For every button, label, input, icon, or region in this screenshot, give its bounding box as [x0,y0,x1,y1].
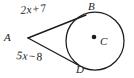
point-label-c: C [100,36,107,47]
segment-label-ad: 5x−8 [16,50,43,63]
circle-shape [66,12,124,70]
point-label-a: A [4,32,11,43]
point-label-d: D [76,64,84,75]
segment-label-ab: 2x+7 [20,3,47,17]
tangent-segment-ab [28,15,86,38]
segment-ad-constant: 8 [36,50,43,62]
center-point-dot [92,35,97,40]
point-label-b: B [88,1,95,12]
geometry-figure: A B C D 2x+7 5x−8 [0,0,134,78]
segment-ab-constant: 7 [40,2,47,14]
